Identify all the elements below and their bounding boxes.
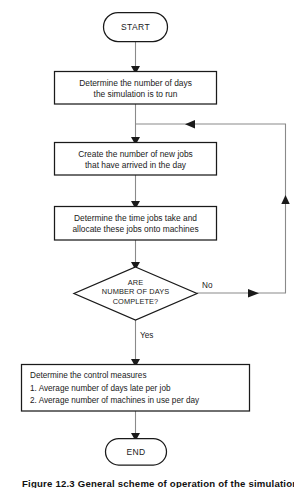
arrowhead-feedback-left: [185, 120, 195, 129]
node-control-measures-label: Determine the control measures 1. Averag…: [30, 370, 246, 408]
arrowhead-no-branch-right: [248, 289, 259, 298]
node-create-jobs-label: Create the number of new jobs that have …: [56, 149, 215, 171]
figure-caption: Figure 12.3 General scheme of operation …: [22, 478, 294, 488]
node-decision-label: ARE NUMBER OF DAYS COMPLETE?: [75, 278, 196, 306]
node-start-label: START: [103, 22, 168, 33]
arrowhead-feedback-up: [281, 195, 289, 204]
node-end-label: END: [105, 447, 167, 458]
node-determine-days-label: Determine the number of days the simulat…: [56, 78, 215, 100]
edge-label-yes: Yes: [140, 331, 153, 340]
node-allocate-jobs-label: Determine the time jobs take and allocat…: [56, 213, 215, 235]
figure-container: START Determine the number of days the s…: [0, 0, 301, 488]
flowchart-canvas: [0, 0, 301, 488]
edge-label-no: No: [202, 281, 212, 290]
